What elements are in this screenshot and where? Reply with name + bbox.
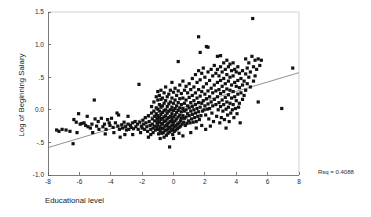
data-point (137, 128, 140, 131)
data-point (232, 74, 235, 77)
data-point (247, 76, 250, 79)
data-point (194, 103, 197, 106)
data-point (162, 136, 165, 139)
data-point (173, 98, 176, 101)
data-point (224, 126, 227, 129)
data-point (180, 110, 183, 113)
data-point (178, 113, 181, 116)
data-point (118, 128, 121, 131)
data-point (192, 121, 195, 124)
data-point (194, 73, 197, 76)
data-point (182, 121, 185, 124)
data-point (200, 72, 203, 75)
data-point (197, 101, 200, 104)
data-point (199, 95, 202, 98)
data-point (222, 90, 225, 93)
data-point (206, 70, 209, 73)
data-point (195, 120, 198, 123)
data-point (189, 131, 192, 134)
data-point (252, 65, 255, 68)
data-point (193, 116, 196, 119)
data-point (75, 121, 78, 124)
data-point (191, 94, 194, 97)
data-point (64, 128, 67, 131)
data-point (197, 88, 200, 91)
data-point (225, 73, 228, 76)
data-point (177, 89, 180, 92)
data-point (260, 59, 263, 62)
data-point (230, 96, 233, 99)
data-point (155, 95, 158, 98)
data-point (212, 120, 215, 123)
data-point (195, 107, 198, 110)
data-point (228, 63, 231, 66)
data-point (194, 91, 197, 94)
data-point (77, 112, 80, 115)
data-point (225, 100, 228, 103)
data-point (191, 105, 194, 108)
data-point (217, 74, 220, 77)
data-point (195, 81, 198, 84)
data-point (116, 125, 119, 128)
data-point (232, 116, 235, 119)
data-point (180, 103, 183, 106)
data-point (178, 106, 181, 109)
data-point (170, 96, 173, 99)
data-point (213, 64, 216, 67)
data-point (147, 114, 150, 117)
data-point (199, 78, 202, 81)
data-point (202, 66, 205, 69)
data-point (209, 125, 212, 128)
data-point (168, 145, 171, 148)
data-point (183, 89, 186, 92)
data-point (192, 85, 195, 88)
data-point (57, 130, 60, 133)
data-point (170, 81, 173, 84)
data-point (184, 85, 187, 88)
data-point (222, 61, 225, 64)
data-point (192, 99, 195, 102)
data-point (100, 117, 103, 120)
data-point (68, 130, 71, 133)
data-point (181, 96, 184, 99)
x-tick-label: 0 (172, 178, 176, 185)
data-point (188, 106, 191, 109)
y-tick-label: .5 (39, 74, 45, 81)
data-point (108, 124, 111, 127)
data-point (239, 121, 242, 124)
data-point (93, 117, 96, 120)
data-point (228, 76, 231, 79)
x-axis-title: Educational level (45, 196, 104, 205)
data-point (280, 107, 283, 110)
data-point (230, 83, 233, 86)
data-point (220, 116, 223, 119)
data-point (208, 79, 211, 82)
data-point (117, 113, 120, 116)
data-point (184, 115, 187, 118)
data-point (215, 115, 218, 118)
data-point (203, 76, 206, 79)
data-point (192, 108, 195, 111)
data-point (213, 98, 216, 101)
data-point (195, 126, 198, 129)
data-point (112, 131, 115, 134)
data-point (195, 96, 198, 99)
data-point (90, 123, 93, 126)
x-tick-label: -8 (45, 178, 51, 185)
data-point (104, 128, 107, 131)
data-point (191, 77, 194, 80)
data-point (217, 88, 220, 91)
data-point (164, 85, 167, 88)
data-point (186, 91, 189, 94)
data-point (188, 82, 191, 85)
data-point (181, 80, 184, 83)
data-point (188, 114, 191, 117)
data-point (207, 117, 210, 120)
data-point (219, 105, 222, 108)
data-point (177, 60, 180, 63)
data-point (205, 82, 208, 85)
x-tick-label: 8 (297, 178, 301, 185)
data-point (178, 83, 181, 86)
data-point (210, 87, 213, 90)
x-tick-label: -4 (108, 178, 114, 185)
